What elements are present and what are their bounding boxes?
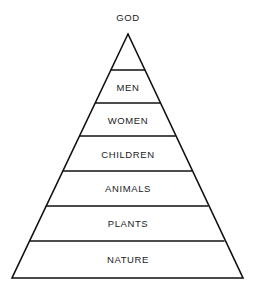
diagram-canvas: GOD MEN WOMEN CHILDREN ANIMALS PLANTS NA…: [0, 0, 258, 295]
tier-label-women: WOMEN: [108, 115, 148, 126]
tier-label-children: CHILDREN: [101, 149, 154, 160]
tier-label-nature: NATURE: [107, 254, 149, 265]
tier-label-animals: ANIMALS: [105, 183, 151, 194]
apex-label-god: GOD: [116, 12, 139, 23]
pyramid-diagram: GOD MEN WOMEN CHILDREN ANIMALS PLANTS NA…: [0, 0, 258, 295]
tier-label-men: MEN: [117, 82, 140, 93]
tier-label-plants: PLANTS: [108, 218, 149, 229]
